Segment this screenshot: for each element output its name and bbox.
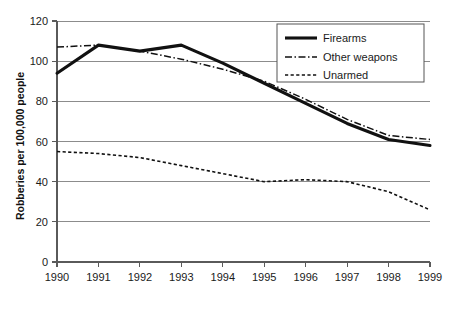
chart-container: 020406080100120 199019911992199319941995…: [0, 0, 453, 316]
y-axis-title: Robberies per 100,000 people: [14, 72, 26, 220]
x-axis-ticks-group: [57, 262, 430, 267]
line-chart-figure: 020406080100120 199019911992199319941995…: [0, 0, 453, 316]
legend: Firearms Other weapons Unarmed: [277, 24, 424, 82]
y-axis-tick-label: 0: [42, 256, 48, 268]
y-axis-tick-label: 40: [36, 176, 48, 188]
x-axis-tick-label: 1999: [418, 271, 442, 283]
legend-label-other-weapons: Other weapons: [323, 51, 398, 63]
y-axis-tick-label: 60: [36, 136, 48, 148]
y-axis-tick-label: 120: [30, 15, 48, 27]
legend-label-firearms: Firearms: [323, 32, 367, 44]
x-axis-tick-labels-group: 1990199119921993199419951996199719981999: [45, 271, 442, 283]
x-axis-tick-label: 1995: [252, 271, 276, 283]
x-axis-tick-label: 1998: [376, 271, 400, 283]
y-axis-tick-label: 80: [36, 95, 48, 107]
x-axis-tick-label: 1992: [128, 271, 152, 283]
x-axis-tick-label: 1993: [169, 271, 193, 283]
x-axis-tick-label: 1996: [293, 271, 317, 283]
x-axis-tick-label: 1994: [211, 271, 235, 283]
x-axis-tick-label: 1997: [335, 271, 359, 283]
y-axis-ticks-group: [52, 21, 57, 262]
y-axis-tick-label: 100: [30, 55, 48, 67]
x-axis-tick-label: 1990: [45, 271, 69, 283]
y-axis-tick-labels-group: 020406080100120: [30, 15, 48, 268]
legend-label-unarmed: Unarmed: [323, 69, 368, 81]
x-axis-tick-label: 1991: [86, 271, 110, 283]
series-line-unarmed: [57, 152, 430, 210]
y-axis-tick-label: 20: [36, 216, 48, 228]
